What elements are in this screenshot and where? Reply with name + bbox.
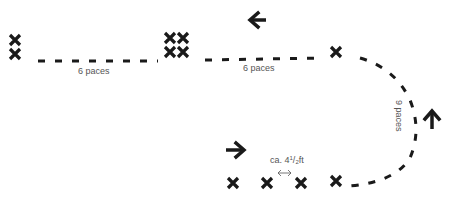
cross-group-left bbox=[10, 35, 20, 59]
cross-icon bbox=[178, 33, 188, 43]
spacing-label: ca. 41/2ft bbox=[270, 155, 304, 165]
cross-icon bbox=[228, 178, 238, 188]
arrow-up-icon bbox=[425, 111, 439, 129]
cross-icon bbox=[262, 178, 272, 188]
cross-icon bbox=[10, 35, 20, 45]
arrow-right-icon bbox=[226, 143, 244, 157]
path-segment-2 bbox=[205, 58, 322, 60]
arrow-left-icon bbox=[250, 13, 266, 27]
double-arrow-icon bbox=[278, 170, 291, 176]
segment-3-label: 9 paces bbox=[394, 100, 404, 132]
cross-group-middle bbox=[165, 33, 188, 57]
cross-icon bbox=[165, 33, 175, 43]
cross-icon bbox=[331, 47, 341, 57]
cross-icon bbox=[165, 47, 175, 57]
paces-diagram: 6 paces 6 paces 9 paces ca. 41/2ft bbox=[0, 0, 459, 200]
cross-group-bottom bbox=[228, 176, 341, 188]
cross-icon bbox=[10, 49, 20, 59]
path-segment-3 bbox=[350, 58, 416, 186]
cross-icon bbox=[178, 47, 188, 57]
cross-icon bbox=[331, 176, 341, 186]
segment-1-label: 6 paces bbox=[78, 66, 110, 76]
cross-icon bbox=[296, 178, 306, 188]
svg-text:ca. 41/2ft: ca. 41/2ft bbox=[270, 155, 304, 165]
segment-2-label: 6 paces bbox=[243, 63, 275, 73]
